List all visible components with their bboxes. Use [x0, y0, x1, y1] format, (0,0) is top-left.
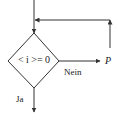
yes-branch-label: Ja	[16, 95, 24, 104]
no-branch-label: Nein	[64, 68, 82, 77]
decision-condition: < i >= 0	[8, 55, 60, 65]
target-label-p: P	[105, 56, 111, 66]
flowchart-canvas: < i >= 0 Nein Ja P	[0, 0, 119, 121]
